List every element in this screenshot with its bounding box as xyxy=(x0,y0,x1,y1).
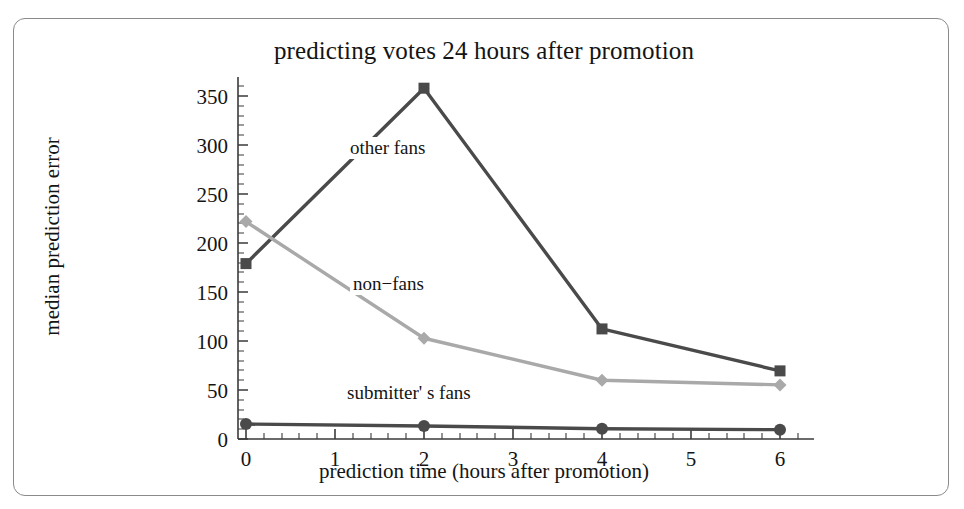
data-point-marker xyxy=(774,378,787,391)
chart-svg xyxy=(14,19,949,496)
y-axis-minor-ticks xyxy=(238,86,244,429)
figure-card: predicting votes 24 hours after promotio… xyxy=(13,18,949,496)
data-point-marker xyxy=(775,365,786,376)
series-label-non-fans: non−fans xyxy=(350,273,427,295)
x-axis-minor-ticks xyxy=(264,433,798,439)
series-non-fans xyxy=(240,215,787,391)
series-other-fans xyxy=(241,83,786,377)
data-point-marker xyxy=(240,418,252,430)
data-point-marker xyxy=(597,323,608,334)
series-line xyxy=(246,424,780,430)
data-point-marker xyxy=(596,374,609,387)
series-line xyxy=(246,88,780,371)
series-label-submitters-fans: submitter' s fans xyxy=(344,382,474,404)
data-point-marker xyxy=(596,423,608,435)
data-point-marker xyxy=(418,420,430,432)
series-line xyxy=(246,222,780,385)
chart-plot-area: predicting votes 24 hours after promotio… xyxy=(14,19,949,496)
data-point-marker xyxy=(774,424,786,436)
data-point-marker xyxy=(241,258,252,269)
data-series-layer xyxy=(240,83,787,436)
data-point-marker xyxy=(419,83,430,94)
series-label-other-fans: other fans xyxy=(347,137,428,159)
